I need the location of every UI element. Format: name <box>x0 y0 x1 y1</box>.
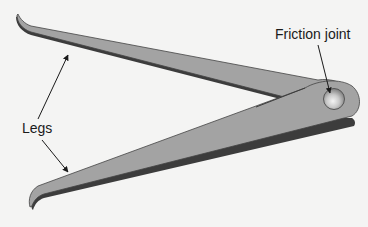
caliper-diagram: Friction joint Legs <box>0 0 368 227</box>
legs-arrow-upper <box>38 55 68 119</box>
friction-joint <box>324 89 345 110</box>
friction-joint-label: Friction joint <box>275 27 350 41</box>
legs-arrow-lower <box>42 140 68 172</box>
legs-label: Legs <box>22 121 52 135</box>
lower-leg <box>29 81 359 210</box>
